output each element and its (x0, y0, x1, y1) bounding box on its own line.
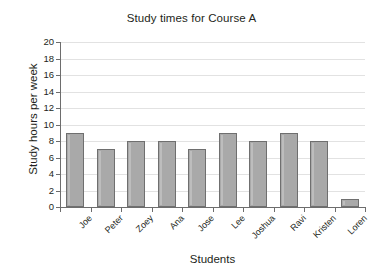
x-tick-mark (121, 208, 122, 212)
gridline (60, 75, 365, 76)
bar (280, 133, 298, 207)
x-tick-mark (274, 208, 275, 212)
x-tick-mark (365, 208, 366, 212)
gridline (60, 92, 365, 93)
y-tick-label: 2 (30, 186, 54, 196)
gridline (60, 125, 365, 126)
x-tick-mark (152, 208, 153, 212)
x-tick-mark (182, 208, 183, 212)
bar (66, 133, 84, 207)
bar (127, 141, 145, 207)
y-tick-label: 16 (30, 70, 54, 80)
bar (219, 133, 237, 207)
plot-area: 02468101214161820 JoePeterZoeyAnaJoseLee… (60, 42, 365, 207)
y-axis-line (60, 42, 61, 208)
y-tick-label: 0 (30, 202, 54, 212)
bar (158, 141, 176, 207)
bar (341, 199, 359, 207)
bar-chart: Study times for Course A Study hours per… (0, 0, 383, 280)
bar (249, 141, 267, 207)
x-axis-title: Students (60, 253, 365, 265)
x-tick-mark (60, 208, 61, 212)
y-tick-label: 8 (30, 136, 54, 146)
y-tick-label: 18 (30, 54, 54, 64)
bar (310, 141, 328, 207)
x-tick-mark (213, 208, 214, 212)
y-tick-label: 20 (30, 37, 54, 47)
gridline (60, 59, 365, 60)
bar (97, 149, 115, 207)
chart-title: Study times for Course A (0, 12, 383, 24)
y-tick-label: 12 (30, 103, 54, 113)
y-tick-label: 4 (30, 169, 54, 179)
x-tick-mark (304, 208, 305, 212)
y-tick-label: 6 (30, 153, 54, 163)
y-tick-label: 10 (30, 120, 54, 130)
bar (188, 149, 206, 207)
gridline (60, 108, 365, 109)
y-tick-label: 14 (30, 87, 54, 97)
gridline (60, 42, 365, 43)
x-tick-mark (335, 208, 336, 212)
x-tick-mark (91, 208, 92, 212)
x-tick-mark (243, 208, 244, 212)
